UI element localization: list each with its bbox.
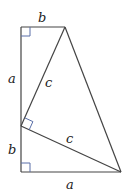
label-left-b: b (8, 142, 16, 157)
upper-hypotenuse-c (21, 27, 65, 126)
right-angle-marker-top-icon (21, 27, 30, 36)
pythagorean-trapezoid-diagram: b a c c b a (0, 0, 127, 192)
label-left-a: a (8, 71, 16, 86)
right-angle-marker-bottom-icon (21, 163, 30, 172)
label-top-b: b (38, 10, 46, 25)
label-upper-c: c (45, 75, 53, 90)
label-lower-c: c (66, 131, 74, 146)
label-bottom-a: a (66, 177, 74, 192)
